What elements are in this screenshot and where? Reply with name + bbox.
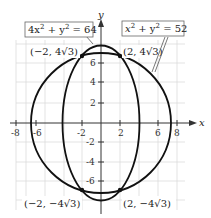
point-label: (2, −4√3) <box>123 198 171 209</box>
x-tick-label: -6 <box>33 128 42 138</box>
y-axis-label: y <box>97 9 104 20</box>
tick-marks <box>16 63 177 181</box>
x-tick-label: 2 <box>118 128 124 138</box>
y-tick-label: -6 <box>86 176 95 186</box>
intersection-point <box>80 54 84 58</box>
x-tick-label: -8 <box>11 128 20 138</box>
x-axis-label: x <box>199 117 205 128</box>
y-tick-label: -2 <box>86 137 95 147</box>
point-label: (−2, 4√3) <box>30 46 78 57</box>
y-axis-arrow-icon <box>98 19 104 27</box>
x-axis-arrow-icon <box>189 120 197 126</box>
y-tick-label: 4 <box>90 77 96 87</box>
y-tick-label: -4 <box>86 157 95 167</box>
y-tick-label: 2 <box>90 98 96 108</box>
ellipse-equation-label: 4x2 + y2 = 64 <box>25 22 97 44</box>
point-label: (−2, −4√3) <box>24 198 80 209</box>
graph: x y -8 -6 -2 2 6 8 6 4 2 -2 -4 -6 (−2, 4… <box>0 0 211 218</box>
point-label: (2, 4√3) <box>123 46 163 57</box>
intersection-point <box>80 188 84 192</box>
y-tick-label: 6 <box>90 58 96 68</box>
x-tick-label: -2 <box>77 128 86 138</box>
x-tick-label: 8 <box>174 128 180 138</box>
x-tick-label: 6 <box>155 128 161 138</box>
intersection-point <box>118 54 122 58</box>
svg-text:4x2 + y2 = 64: 4x2 + y2 = 64 <box>28 23 97 35</box>
intersection-point <box>118 188 122 192</box>
